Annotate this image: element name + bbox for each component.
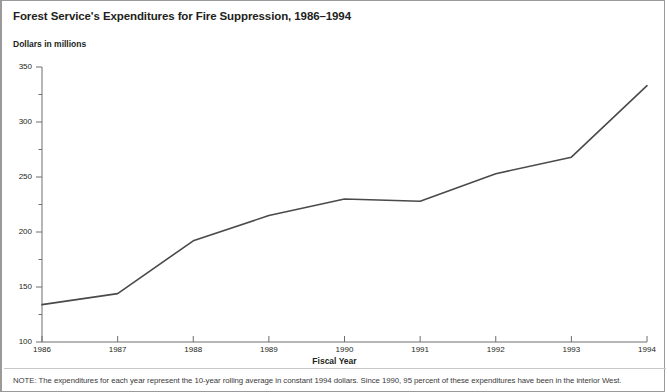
x-axis-tick-label: 1993 <box>551 345 591 354</box>
x-axis-tick-label: 1988 <box>173 345 213 354</box>
line-chart-plot <box>2 1 667 392</box>
y-axis-tick-label: 350 <box>4 62 32 71</box>
y-axis-tick-label: 150 <box>4 282 32 291</box>
y-axis-tick-label: 250 <box>4 172 32 181</box>
x-axis-tick-label: 1992 <box>476 345 516 354</box>
x-axis-tick-label: 1994 <box>627 345 667 354</box>
y-axis-tick-label: 300 <box>4 117 32 126</box>
note-divider <box>4 368 666 369</box>
x-axis-tick-label: 1991 <box>400 345 440 354</box>
y-axis-tick-label: 200 <box>4 227 32 236</box>
x-axis-tick-label: 1986 <box>22 345 62 354</box>
x-axis-title: Fiscal Year <box>2 356 667 366</box>
x-axis-tick-label: 1989 <box>249 345 289 354</box>
x-axis-tick-label: 1987 <box>98 345 138 354</box>
x-axis-tick-label: 1990 <box>325 345 365 354</box>
chart-note: NOTE: The expenditures for each year rep… <box>13 376 661 385</box>
